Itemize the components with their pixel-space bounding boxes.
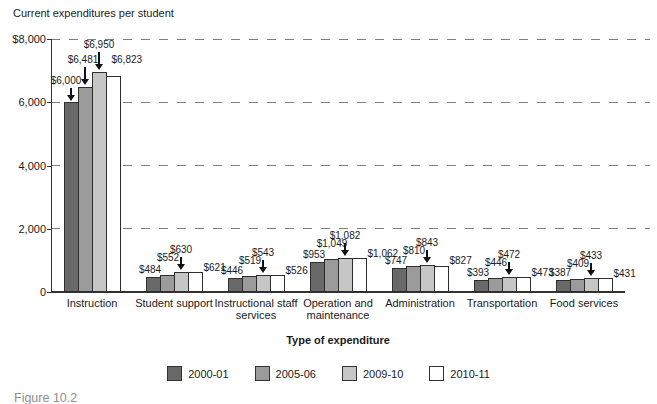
legend-swatch (255, 366, 270, 381)
bar-2005-06 (570, 279, 585, 292)
bar-2000-01 (310, 262, 325, 292)
down-arrow-head (505, 269, 513, 275)
bar-2000-01 (64, 102, 79, 292)
legend-item-2009-10: 2009-10 (342, 366, 403, 381)
bar-value-label: $543 (252, 247, 274, 258)
bar-value-label: $6,950 (84, 39, 115, 50)
bar-2005-06 (406, 266, 421, 292)
legend-label: 2005-06 (276, 368, 316, 380)
legend-label: 2010-11 (450, 368, 490, 380)
legend-item-2000-01: 2000-01 (167, 366, 228, 381)
bar-2010-11 (434, 266, 449, 292)
bar-2009-10 (584, 278, 599, 292)
bar-2005-06 (78, 87, 93, 292)
legend-item-2010-11: 2010-11 (429, 366, 490, 381)
gridline (51, 39, 650, 40)
down-arrow-icon (259, 260, 268, 273)
bar-2005-06 (324, 259, 339, 292)
bar-2009-10 (502, 277, 517, 292)
y-tick-label: 6,000 (0, 96, 46, 108)
bar-value-label: $526 (286, 265, 308, 276)
down-arrow-head (259, 267, 267, 273)
down-arrow-head (67, 95, 75, 101)
legend-swatch (167, 366, 182, 381)
down-arrow-head (587, 270, 595, 276)
bar-value-label: $431 (614, 268, 636, 279)
bar-value-label: $6,000 (51, 75, 82, 86)
down-arrow-head (177, 264, 185, 270)
bar-value-label: $433 (580, 250, 602, 261)
bar-value-label: $472 (498, 249, 520, 260)
bar-2000-01 (392, 268, 407, 292)
down-arrow-head (81, 79, 89, 85)
y-tick-label: 2,000 (0, 223, 46, 235)
figure-caption: Figure 10.2 (14, 391, 77, 404)
down-arrow-icon (81, 67, 90, 85)
down-arrow-head (95, 64, 103, 70)
bar-2009-10 (420, 265, 435, 292)
legend: 2000-012005-062009-102010-11 (0, 366, 657, 381)
legend-swatch (342, 366, 357, 381)
down-arrow-icon (505, 262, 514, 275)
down-arrow-head (341, 250, 349, 256)
bar-2005-06 (488, 278, 503, 292)
gridline (51, 165, 650, 166)
bar-2010-11 (188, 272, 203, 292)
bar-value-label: $393 (467, 267, 489, 278)
x-axis-title: Type of expenditure (51, 334, 625, 346)
bar-2005-06 (242, 276, 257, 292)
chart-figure: Current expenditures per student $8,0006… (0, 0, 657, 404)
down-arrow-icon (341, 243, 350, 256)
bar-2000-01 (474, 280, 489, 292)
bar-2010-11 (270, 275, 285, 292)
legend-label: 2000-01 (188, 368, 228, 380)
legend-label: 2009-10 (363, 368, 403, 380)
gridline (51, 102, 650, 103)
bar-2010-11 (516, 277, 531, 292)
bar-2010-11 (106, 76, 121, 292)
bar-2000-01 (146, 277, 161, 292)
y-tick-label: $8,000 (0, 33, 46, 45)
legend-swatch (429, 366, 444, 381)
bar-2005-06 (160, 275, 175, 292)
bar-value-label: $827 (450, 255, 472, 266)
down-arrow-head (423, 257, 431, 263)
down-arrow-icon (67, 88, 76, 101)
bar-value-label: $484 (139, 264, 161, 275)
bar-value-label: $747 (385, 255, 407, 266)
bar-2009-10 (338, 258, 353, 292)
bar-2009-10 (174, 272, 189, 292)
y-tick-label: 4,000 (0, 160, 46, 172)
bar-value-label: $446 (221, 265, 243, 276)
down-arrow-icon (177, 257, 186, 270)
bar-value-label: $1,082 (330, 230, 361, 241)
bar-value-label: $6,823 (112, 54, 143, 65)
bar-value-label: $630 (170, 244, 192, 255)
bar-2010-11 (352, 258, 367, 292)
bar-2000-01 (556, 280, 571, 292)
bar-2010-11 (598, 278, 613, 292)
bar-2009-10 (256, 275, 271, 292)
down-arrow-icon (587, 263, 596, 276)
down-arrow-icon (95, 52, 104, 70)
category-label: Food services (524, 297, 644, 309)
bar-value-label: $843 (416, 237, 438, 248)
bar-2009-10 (92, 72, 107, 292)
down-arrow-icon (423, 250, 432, 263)
legend-item-2005-06: 2005-06 (255, 366, 316, 381)
bar-2000-01 (228, 278, 243, 292)
bar-value-label: $953 (303, 249, 325, 260)
